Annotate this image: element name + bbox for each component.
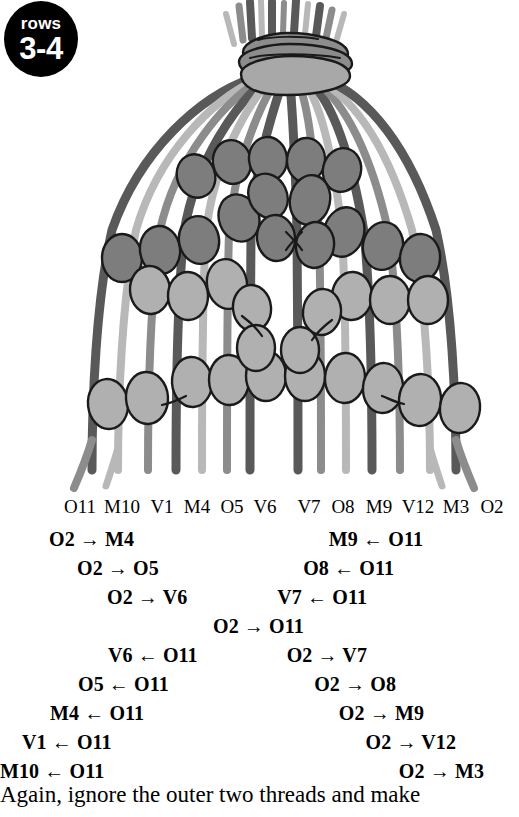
instruction-left-5: M4 ← O11 <box>50 702 144 725</box>
instruction-right-6: O2 → V12 <box>366 731 456 754</box>
caption-text: Again, ignore the outer two threads and … <box>0 781 519 809</box>
instruction-right-3: O2 → V7 <box>287 644 367 667</box>
instruction-right-5: O2 → M9 <box>339 702 424 725</box>
instruction-left-0: O2 → M4 <box>49 528 134 551</box>
macrame-bell-diagram <box>0 0 519 500</box>
instruction-block: O2 → M4O2 → O5O2 → V6V6 ← O11O5 ← O11M4 … <box>0 528 519 774</box>
instruction-left-4: O5 ← O11 <box>78 673 169 696</box>
instruction-left-2: O2 → V6 <box>107 586 187 609</box>
gathering-knot <box>239 33 352 95</box>
instruction-center: O2 → O11 <box>213 615 304 638</box>
thread-label-v1: V1 <box>150 496 173 518</box>
instruction-right-2: V7 ← O11 <box>277 586 367 609</box>
instruction-right-0: M9 ← O11 <box>329 528 423 551</box>
thread-label-o8: O8 <box>331 496 354 518</box>
thread-label-m9: M9 <box>366 496 392 518</box>
instruction-right-1: O8 ← O11 <box>303 557 394 580</box>
instruction-right-7: O2 → M3 <box>399 760 484 783</box>
thread-label-m10: M10 <box>104 496 140 518</box>
thread-label-o11: O11 <box>64 496 96 518</box>
instruction-left-7: M10 ← O11 <box>0 760 104 783</box>
instruction-left-6: V1 ← O11 <box>22 731 112 754</box>
instruction-right-4: O2 → O8 <box>314 673 396 696</box>
thread-label-o2: O2 <box>480 496 503 518</box>
bell-diagram-svg <box>0 0 519 500</box>
thread-label-v6: V6 <box>253 496 276 518</box>
thread-label-m3: M3 <box>443 496 469 518</box>
thread-label-row: O11M10V1M4O5V6V7O8M9V12M3O2 <box>0 496 519 522</box>
thread-label-v7: V7 <box>297 496 320 518</box>
thread-tips <box>74 440 474 488</box>
thread-label-o5: O5 <box>220 496 243 518</box>
thread-label-v12: V12 <box>402 496 435 518</box>
instruction-left-3: V6 ← O11 <box>108 644 198 667</box>
instruction-left-1: O2 → O5 <box>77 557 159 580</box>
thread-label-m4: M4 <box>184 496 210 518</box>
